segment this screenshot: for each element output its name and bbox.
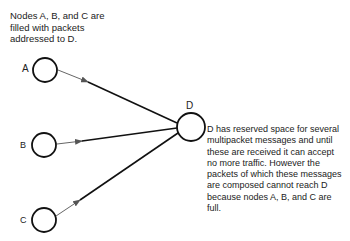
node-c-label: C xyxy=(20,215,27,225)
node-c xyxy=(32,208,56,232)
caption-line: are composed cannot reach D xyxy=(207,180,342,191)
caption-line: no more traffic. However the xyxy=(207,158,342,169)
caption-line: full. xyxy=(207,203,342,214)
node-d xyxy=(177,113,205,141)
caption-line: because nodes A, B, and C are xyxy=(207,192,342,203)
node-a xyxy=(33,58,57,82)
node-a-label: A xyxy=(22,63,29,74)
node-b-label: B xyxy=(20,140,26,150)
node-b xyxy=(32,133,56,157)
caption-line: multipacket messages and until xyxy=(207,135,342,146)
caption-line: packets of which these messages xyxy=(207,169,342,180)
node-d-label: D xyxy=(186,100,193,111)
caption-line: D has reserved space for several xyxy=(207,124,342,135)
right-caption: D has reserved space for several multipa… xyxy=(207,124,342,214)
caption-line: these are received it can accept xyxy=(207,147,342,158)
